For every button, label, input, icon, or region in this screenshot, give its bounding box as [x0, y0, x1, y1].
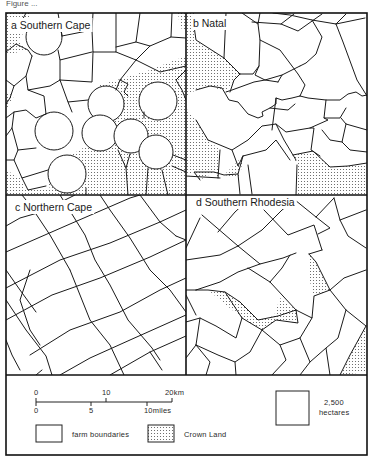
crown-land-swatch [148, 425, 174, 442]
legend: 0 10 20km 0 5 10miles farm boundaries Cr… [34, 388, 349, 442]
figure-caption-fragment: Figure ... [6, 0, 38, 8]
panel-northern-cape [6, 195, 186, 375]
panel-southern-cape [6, 13, 186, 195]
crown-land-label: Crown Land [184, 430, 226, 439]
scale-miles-5: 5 [89, 406, 93, 415]
scale-km-20: 20km [165, 388, 184, 397]
farm-boundary-swatch [36, 425, 62, 442]
panel-label-southern-cape: a Southern Cape [11, 19, 91, 31]
area-reference-square [276, 391, 309, 425]
area-reference-unit: hectares [319, 408, 349, 417]
panel-southern-rhodesia [186, 198, 367, 375]
panel-label-northern-cape: c Northern Cape [15, 201, 92, 213]
panel-natal [186, 13, 367, 195]
settler-farm-patterns-map: Figure ... [0, 0, 375, 460]
panel-label-southern-rhodesia: d Southern Rhodesia [196, 196, 295, 208]
panel-label-natal: b Natal [193, 17, 226, 29]
scale-miles-0: 0 [34, 406, 38, 415]
farm-boundaries-label: farm boundaries [72, 430, 129, 439]
scale-bar: 0 10 20km 0 5 10miles [34, 388, 184, 415]
scale-km-10: 10 [102, 388, 111, 397]
scale-km-0: 0 [34, 388, 38, 397]
area-reference-value: 2,500 [324, 398, 344, 407]
scale-miles-10: 10miles [144, 406, 171, 415]
